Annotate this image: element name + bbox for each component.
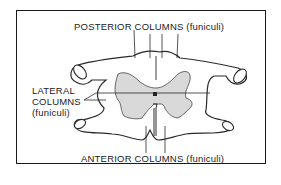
lateral-columns-label-1: LATERAL <box>32 86 75 96</box>
lateral-columns-label-3: (funiculi) <box>32 108 70 118</box>
anterior-columns-label: ANTERIOR COLUMNS (funiculi) <box>81 154 224 164</box>
lateral-columns-label-2: COLUMNS <box>32 97 81 107</box>
posterior-columns-label: POSTERIOR COLUMNS (funiculi) <box>74 22 224 32</box>
